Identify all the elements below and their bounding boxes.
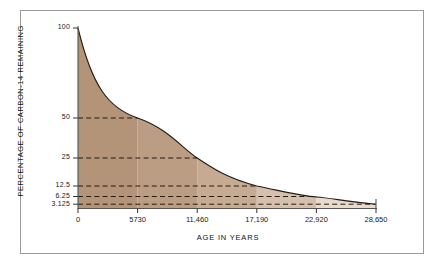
y-tick-marks	[73, 28, 78, 204]
y-tick-label-50: 50	[40, 113, 70, 120]
carbon-14-decay-chart	[0, 0, 443, 265]
y-axis-title: PERCENTAGE OF CARBON-14 REMAINING	[16, 37, 25, 197]
y-tick-label-6-25: 6.25	[40, 192, 70, 199]
fill-band-5	[316, 20, 376, 210]
fill-band-3	[197, 20, 257, 210]
x-axis-title: AGE IN YEARS	[78, 233, 378, 242]
y-tick-label-12-5: 12.5	[40, 181, 70, 188]
x-tick-label-17190: 17,190	[237, 215, 277, 224]
x-tick-marks	[78, 209, 376, 214]
x-tick-label-0: 0	[58, 215, 98, 224]
x-tick-label-5730: 5730	[118, 215, 158, 224]
y-tick-label-3-125: 3.125	[40, 200, 70, 207]
fill-band-4	[257, 20, 317, 210]
fill-band-1	[78, 20, 138, 210]
x-tick-label-11460: 11,460	[177, 215, 217, 224]
x-tick-label-22920: 22,920	[296, 215, 336, 224]
y-tick-label-100: 100	[40, 23, 70, 30]
x-tick-label-28650: 28,650	[356, 215, 396, 224]
decay-area-fill	[78, 20, 376, 210]
y-tick-label-25: 25	[40, 153, 70, 160]
fill-band-2	[138, 20, 198, 210]
